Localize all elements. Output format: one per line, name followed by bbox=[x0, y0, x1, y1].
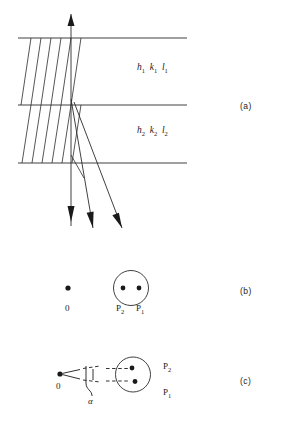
incident-beam-arrowhead-up bbox=[68, 14, 75, 26]
spot-p1-b bbox=[137, 286, 142, 291]
miller-k-2-sub: 2 bbox=[154, 130, 157, 137]
lattice-planes-layer-1 bbox=[21, 38, 81, 105]
origin-spot-b bbox=[65, 285, 70, 290]
panel-a-diagram bbox=[18, 14, 187, 228]
miller-indices-layer-2: h2 k2 l2 bbox=[137, 125, 168, 137]
panel-b-diagram bbox=[65, 271, 148, 306]
spot-p2-c bbox=[130, 366, 135, 371]
spot-p1-c bbox=[133, 379, 138, 384]
spot-label-p2-b-sub: 2 bbox=[121, 308, 124, 315]
diffracted-beam-1-arrowhead bbox=[87, 212, 94, 228]
ray-to-p1-c bbox=[63, 375, 81, 379]
panel-label-a: (a) bbox=[240, 101, 252, 111]
miller-k-1-sub: 1 bbox=[154, 67, 157, 74]
panel-c-diagram bbox=[57, 357, 150, 396]
origin-spot-c bbox=[57, 371, 62, 376]
origin-label-b: 0 bbox=[65, 303, 70, 313]
lattice-planes-layer-2 bbox=[22, 105, 81, 163]
spot-label-p2-c-sub: 2 bbox=[168, 366, 171, 373]
miller-l-1-sub: 1 bbox=[165, 67, 168, 74]
miller-indices-layer-1: h1 k1 l1 bbox=[137, 62, 168, 74]
panel-label-c: (c) bbox=[240, 376, 251, 386]
miller-h-1-sub: 1 bbox=[142, 67, 145, 74]
alpha-angle-label: α bbox=[88, 396, 93, 406]
dashed-reflection-lines-c bbox=[83, 366, 128, 382]
alpha-angle-arc bbox=[86, 383, 92, 396]
miller-h-2-sub: 2 bbox=[142, 130, 145, 137]
diffracted-beam-2-arrowhead bbox=[112, 213, 122, 228]
scatter-stub-line bbox=[71, 155, 84, 178]
transmitted-beam-arrowhead-down bbox=[68, 206, 75, 222]
diffracted-beam-1-line bbox=[71, 99, 93, 228]
spot-label-p2-b: P2 bbox=[116, 303, 124, 315]
origin-label-c: 0 bbox=[56, 381, 61, 391]
reflection-circle-c bbox=[116, 357, 151, 392]
ray-to-p2-c bbox=[63, 370, 81, 374]
reflection-circle-b bbox=[114, 271, 149, 306]
spot-label-p1-b-sub: 1 bbox=[141, 308, 144, 315]
miller-l-2-sub: 2 bbox=[165, 130, 168, 137]
spot-p2-b bbox=[121, 286, 126, 291]
spot-label-p2-c: P2 bbox=[163, 361, 171, 373]
panel-label-b: (b) bbox=[240, 286, 252, 296]
spot-label-p1-b: P1 bbox=[136, 303, 144, 315]
spot-label-p1-c: P1 bbox=[163, 387, 171, 399]
spot-label-p1-c-sub: 1 bbox=[168, 392, 171, 399]
diffracted-beam-2-line bbox=[74, 102, 122, 228]
